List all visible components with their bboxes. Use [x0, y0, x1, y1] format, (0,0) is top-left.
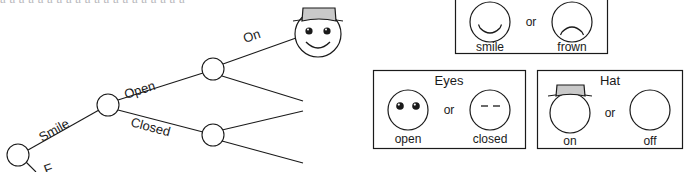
eyes-open-right-icon [412, 102, 420, 110]
edge-open-down [222, 76, 303, 101]
figure-svg: Smile Open Closed On F Mouth [0, 0, 686, 172]
edge-closed-up [222, 111, 303, 130]
edge-label-smile: Smile [36, 116, 72, 145]
edge-label-closed: Closed [129, 114, 172, 139]
legend-box-hat: Hat on or off [538, 71, 683, 149]
legend-box-eyes: Eyes open or closed [374, 71, 526, 149]
eyes-open-left-glint-icon [398, 104, 400, 106]
legend-box-mouth: Mouth smile or frown [456, 0, 608, 54]
hat-on-crown-icon [556, 85, 585, 96]
eyes-open-face-icon [388, 90, 428, 130]
edge-open-leaf [223, 38, 296, 64]
legend-conjunction-eyes: or [444, 103, 455, 117]
legend-option-label-hat-off: off [643, 134, 657, 148]
legend-option-label-frown: frown [557, 40, 586, 54]
tree-node-root [7, 144, 29, 166]
eye-right-glint-icon [325, 29, 327, 31]
eye-left-glint-icon [307, 29, 309, 31]
partial-bottom-label: F [42, 160, 56, 172]
legend-box-eyes-title: Eyes [435, 73, 464, 88]
eyes-open-left-icon [396, 102, 404, 110]
eyes-closed-face-icon [470, 90, 510, 130]
decision-tree [7, 38, 303, 172]
tree-node-closed [202, 124, 224, 146]
edge-label-on: On [241, 26, 262, 46]
tree-node-smile [97, 94, 119, 116]
eye-left-icon [305, 27, 312, 34]
legend-box-hat-title: Hat [600, 73, 621, 88]
tree-node-open [202, 58, 224, 80]
legend-option-label-eyes-open: open [395, 132, 422, 146]
edge-root-stub [26, 162, 36, 172]
edge-label-open: Open [122, 78, 157, 102]
edge-closed-down [222, 141, 303, 163]
eyes-open-right-glint-icon [414, 104, 416, 106]
eye-right-icon [323, 27, 330, 34]
figure-canvas: a a a a a a a a a a a a a a a a a a a a … [0, 0, 686, 172]
legend-option-label-smile: smile [476, 40, 504, 54]
mouth-frown-face-icon [552, 2, 592, 42]
hat-off-face-icon [630, 90, 670, 130]
legend-option-label-hat-on: on [563, 134, 576, 148]
legend-conjunction-mouth: or [526, 15, 537, 29]
hat-on-face-icon [550, 93, 590, 133]
smiley-face-with-hat [293, 8, 343, 57]
legend-option-label-eyes-closed: closed [473, 132, 508, 146]
mouth-smile-face-icon [470, 2, 510, 42]
legend-conjunction-hat: or [605, 106, 616, 120]
hat-crown-icon [302, 8, 336, 21]
